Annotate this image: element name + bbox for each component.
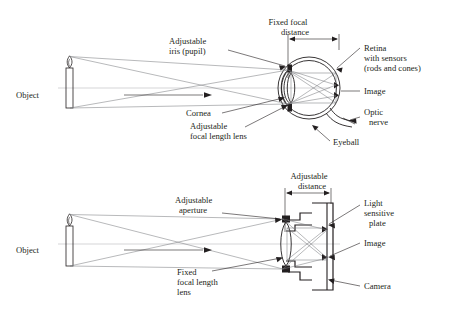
camera-lens-label-line3: lens	[177, 287, 191, 297]
optic-nerve-upper	[330, 108, 352, 121]
iris-leader	[228, 50, 285, 66]
camera-barrel-step-upper	[288, 213, 312, 220]
eye-dim-label-line1: Fixed focal	[269, 17, 309, 27]
eye-ray-base-upper	[70, 70, 288, 108]
camera-image-label: Image	[364, 238, 386, 248]
aperture-label-line1: Adjustable	[175, 195, 212, 205]
eye-ray-tip-upper	[70, 57, 288, 71]
plate-label-line1: Light	[364, 198, 383, 208]
camera-lens-leader-arrow	[276, 257, 283, 262]
figure-canvas: Object Fixed focal distance Adjustable i…	[0, 0, 453, 316]
eye-image-label: Image	[364, 86, 386, 96]
camera-object-leader-arrow	[204, 247, 212, 253]
camera-ray-base-upper	[70, 219, 283, 266]
camera-body-outline	[312, 203, 333, 290]
aperture-leader-arrow	[275, 218, 282, 223]
eye-ray-tip-lower	[70, 57, 288, 105]
aperture-label-line2: aperture	[179, 205, 207, 215]
camera-candle-wick	[69, 217, 70, 224]
camera-leader-arrow	[328, 279, 335, 284]
eye-diagram: Object Fixed focal distance Adjustable i…	[16, 17, 421, 147]
camera-lens-label-line2: focal length	[177, 277, 219, 287]
eyeball-label: Eyeball	[333, 137, 360, 147]
eye-candle-wick	[69, 59, 70, 66]
optic-nerve-label-line1: Optic	[364, 107, 383, 117]
eye-lens-label-line2: focal length lens	[190, 131, 247, 141]
camera-dim-label-line2: distance	[298, 181, 326, 191]
camera-barrel-step-lower	[288, 272, 312, 280]
camera-lens-label-line1: Fixed	[177, 267, 197, 277]
retina-label-line3: (rods and cones)	[364, 63, 421, 73]
camera-object-label: Object	[16, 245, 40, 255]
camera-dim-arrow-right	[324, 190, 330, 195]
cornea-label: Cornea	[186, 108, 211, 118]
camera-dim-label-line1: Adjustable	[290, 171, 327, 181]
camera-ray-tip-upper	[70, 215, 283, 220]
iris-label-line1: Adjustable	[169, 36, 206, 46]
retina-label-line2: with sensors	[364, 53, 407, 63]
eye-dim-arrow-left	[289, 36, 295, 41]
eye-object-label: Object	[16, 90, 40, 100]
retina-label-line1: Retina	[364, 43, 387, 53]
camera-label: Camera	[364, 281, 391, 291]
eye-lens-leader	[245, 106, 286, 127]
plate-leader	[329, 205, 360, 224]
camera-ray-base-out-2	[283, 230, 327, 269]
eye-dim-arrow-right	[332, 36, 338, 41]
camera-leader	[330, 280, 360, 286]
camera-candle-body	[66, 226, 73, 266]
iris-label-line2: iris (pupil)	[169, 46, 206, 56]
plate-label-line3: plate	[369, 218, 386, 228]
eye-object-leader-arrow	[204, 92, 212, 98]
cornea-leader	[222, 98, 283, 113]
camera-image-leader	[330, 243, 360, 256]
eye-dim-label-line2: distance	[281, 27, 309, 37]
retina-leader-arrow	[336, 67, 343, 72]
eye-lens-label-line1: Adjustable	[190, 121, 227, 131]
retina-leader	[337, 48, 360, 68]
iris-lower	[288, 104, 293, 112]
plate-label-line2: sensitive	[364, 208, 394, 218]
camera-dim-arrow-left	[286, 190, 292, 195]
camera-ray-tip-lower	[70, 215, 283, 270]
optic-nerve-label-line2: nerve	[369, 117, 388, 127]
camera-diagram: Object Adjustable distance Adjustable ap…	[16, 171, 394, 297]
